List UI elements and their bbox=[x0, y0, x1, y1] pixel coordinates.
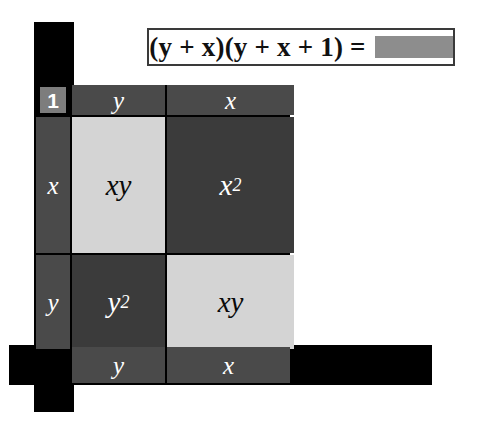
bottom-label-strip: y x bbox=[72, 347, 290, 383]
product-cell-1-0: y2 bbox=[72, 255, 165, 349]
product-base-1-0: y bbox=[108, 288, 121, 317]
bottom-label-0: y bbox=[72, 347, 165, 383]
product-base-0-1: x bbox=[220, 171, 233, 200]
corner-label: 1 bbox=[40, 87, 66, 113]
row-header-1: y bbox=[36, 255, 70, 349]
equation-box: (y + x)(y + x + 1) = bbox=[147, 28, 455, 66]
column-header-1: x bbox=[167, 85, 294, 115]
product-base-1-1: xy bbox=[218, 288, 244, 317]
product-cell-0-1: x2 bbox=[167, 117, 294, 253]
product-cell-1-1: xy bbox=[167, 255, 294, 349]
product-cell-0-0: xy bbox=[72, 117, 165, 253]
equation-expression: (y + x)(y + x + 1) = bbox=[149, 34, 374, 61]
grid-corner-cell: 1 bbox=[36, 85, 70, 115]
answer-blank-field[interactable] bbox=[375, 36, 453, 58]
bottom-label-1: x bbox=[167, 347, 290, 383]
column-header-0: y bbox=[72, 85, 165, 115]
product-base-0-0: xy bbox=[106, 171, 132, 200]
row-header-0: x bbox=[36, 117, 70, 253]
area-model-grid: 1 y x x xy x2 y y2 xy bbox=[36, 85, 290, 345]
